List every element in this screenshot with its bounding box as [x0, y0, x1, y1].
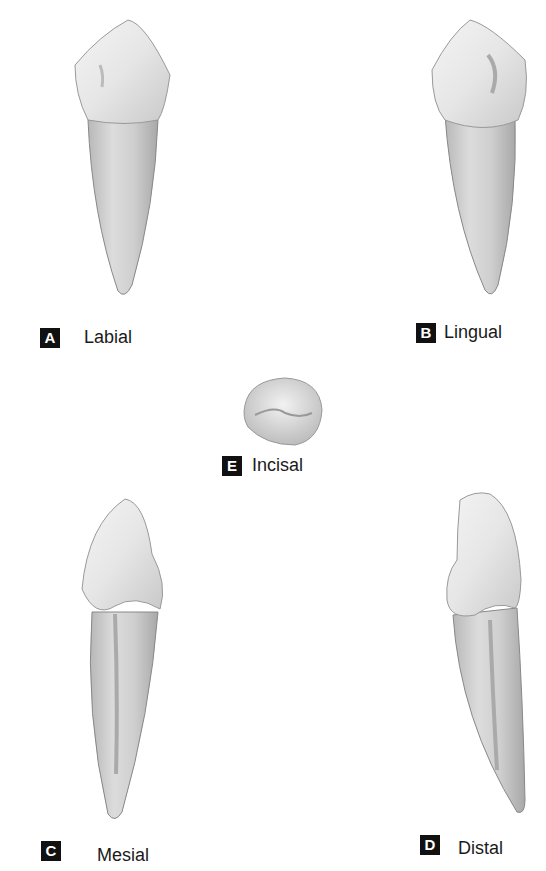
view-name-incisal: Incisal	[252, 455, 303, 476]
view-name-mesial: Mesial	[97, 845, 149, 866]
badge-e: E	[222, 456, 242, 476]
label-labial: A Labial	[40, 327, 132, 348]
tooth-labial-view	[70, 15, 180, 300]
tooth-distal-view	[445, 490, 530, 820]
label-distal: D Distal	[420, 830, 503, 859]
badge-a: A	[40, 328, 60, 348]
badge-b: B	[416, 323, 436, 343]
badge-d: D	[420, 835, 440, 855]
tooth-incisal-view	[240, 375, 325, 450]
tooth-mesial-view	[80, 494, 170, 824]
label-incisal: E Incisal	[222, 455, 303, 476]
tooth-lingual-view	[430, 15, 535, 300]
label-mesial: C Mesial	[41, 835, 149, 866]
label-lingual: B Lingual	[416, 322, 502, 343]
view-name-lingual: Lingual	[444, 322, 502, 343]
badge-c: C	[41, 841, 61, 861]
view-name-labial: Labial	[84, 327, 132, 348]
view-name-distal: Distal	[458, 838, 503, 859]
